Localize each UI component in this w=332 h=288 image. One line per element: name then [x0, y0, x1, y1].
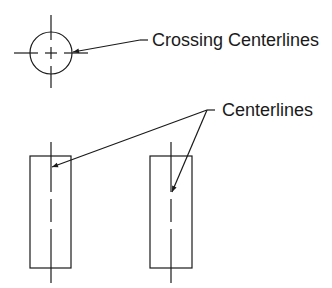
centerlines-leaders [52, 110, 215, 192]
left-rect-view [30, 142, 71, 283]
crossing-centerlines-label: Crossing Centerlines [152, 31, 319, 49]
centerlines-label: Centerlines [222, 101, 313, 119]
crossing-leader [73, 40, 148, 52]
right-rect-view [150, 142, 192, 283]
